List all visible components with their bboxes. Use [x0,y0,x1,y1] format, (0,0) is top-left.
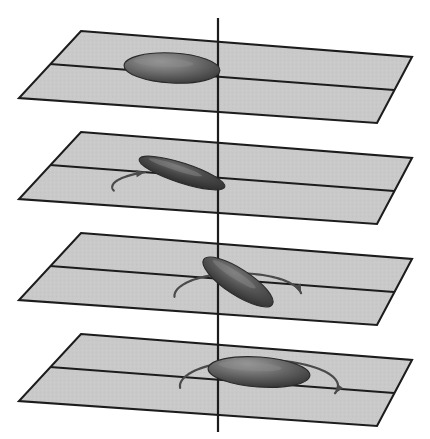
precession-diagram [0,0,430,439]
plane-group-4 [19,334,412,426]
diagram-canvas [0,0,430,439]
